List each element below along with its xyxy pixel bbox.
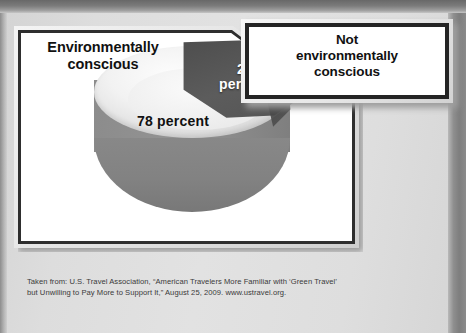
label-not-env-line1: Not bbox=[249, 32, 445, 48]
source-caption: Taken from: U.S. Travel Association, “Am… bbox=[27, 277, 357, 298]
pie-cylinder-bottom-curve bbox=[94, 138, 290, 212]
label-not-env-line3: conscious bbox=[249, 64, 445, 80]
label-environmentally-conscious: Environmentally conscious bbox=[28, 39, 178, 73]
label-not-env-line2: environmentally bbox=[249, 48, 445, 64]
pie-label-78-percent: 78 percent bbox=[137, 113, 209, 129]
label-environmentally-conscious-line2: conscious bbox=[28, 56, 178, 73]
page-left-edge-shadow bbox=[0, 12, 7, 333]
label-environmentally-conscious-line1: Environmentally bbox=[28, 39, 178, 56]
source-caption-line1: Taken from: U.S. Travel Association, “Am… bbox=[27, 277, 357, 288]
label-not-environmentally-conscious: Not environmentally conscious bbox=[249, 32, 445, 80]
figure-page: 22 percent 78 percent Environmentally co… bbox=[0, 0, 466, 333]
page-top-edge-shadow bbox=[0, 0, 466, 13]
source-caption-line2: but Unwilling to Pay More to Support It,… bbox=[27, 288, 357, 299]
